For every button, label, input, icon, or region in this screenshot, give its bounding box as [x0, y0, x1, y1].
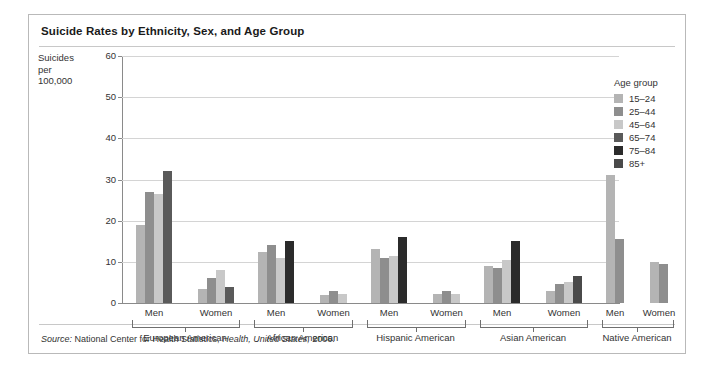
gridline: [122, 180, 619, 181]
x-axis-line: [122, 303, 620, 304]
bar: [320, 295, 329, 303]
legend-swatch-icon: [614, 159, 623, 168]
ethnicity-bracket: [254, 320, 353, 328]
x-axis-sex-label: Women: [629, 307, 689, 318]
legend-item-label: 75–84: [629, 145, 655, 156]
x-axis-ethnicity-label: Hispanic American: [356, 332, 476, 343]
bar: [650, 262, 659, 303]
bar: [216, 270, 225, 303]
legend-item-label: 15–24: [629, 93, 655, 104]
legend-item-label: 45–64: [629, 119, 655, 130]
gridline: [122, 138, 619, 139]
legend-title: Age group: [614, 77, 684, 88]
bar: [502, 260, 511, 303]
title-divider: [39, 46, 675, 47]
gridline: [122, 56, 619, 57]
bar: [564, 282, 573, 303]
y-axis-tick-mark: [118, 138, 122, 139]
ethnicity-bracket: [132, 320, 240, 328]
bar: [207, 278, 216, 303]
x-axis-sex-label: Men: [472, 307, 532, 318]
bar: [389, 256, 398, 303]
x-axis-sex-label: Women: [304, 307, 364, 318]
legend-swatch-icon: [614, 120, 623, 129]
y-axis-tick-label: 60: [92, 50, 116, 61]
bar: [380, 258, 389, 303]
bar: [329, 291, 338, 303]
legend-item: 85+: [614, 157, 684, 170]
x-axis-ethnicity-label: African American: [243, 332, 363, 343]
y-axis-tick-mark: [118, 180, 122, 181]
legend-swatch-icon: [614, 146, 623, 155]
bar: [136, 225, 145, 303]
source-prefix: Source:: [41, 334, 72, 344]
x-axis-ethnicity-label: Native American: [577, 332, 697, 343]
legend-swatch-icon: [614, 94, 623, 103]
legend-item: 45–64: [614, 118, 684, 131]
bar: [225, 287, 234, 303]
y-axis-tick-label: 0: [92, 297, 116, 308]
bar: [442, 291, 451, 303]
y-axis-tick-labels: 0102030405060: [90, 56, 116, 304]
y-axis-tick-label: 20: [92, 215, 116, 226]
y-axis-title-line-1: Suicides: [38, 52, 94, 64]
bar: [276, 258, 285, 303]
x-axis-sex-label: Women: [417, 307, 477, 318]
y-axis-tick-mark: [118, 97, 122, 98]
gridline: [122, 221, 619, 222]
y-axis-tick-mark: [118, 56, 122, 57]
bar: [511, 241, 520, 303]
legend-item: 75–84: [614, 144, 684, 157]
legend-swatch-icon: [614, 107, 623, 116]
y-axis-title-line-3: 100,000: [38, 75, 94, 87]
bar: [338, 294, 347, 303]
bar: [198, 289, 207, 303]
legend-entries: 15–2425–4445–6465–7475–8485+: [614, 92, 684, 170]
y-axis-tick-label: 30: [92, 174, 116, 185]
x-axis-ethnicity-label: European American: [125, 332, 245, 343]
bar: [615, 239, 624, 303]
legend-item-label: 65–74: [629, 132, 655, 143]
bar: [258, 252, 267, 303]
x-axis-ethnicity-label: Asian American: [473, 332, 593, 343]
ethnicity-bracket: [602, 320, 674, 328]
ethnicity-bracket: [367, 320, 466, 328]
y-axis-title: Suicides per 100,000: [38, 52, 94, 87]
bar: [154, 194, 163, 303]
bar: [285, 241, 294, 303]
bar: [398, 237, 407, 303]
bar: [371, 249, 380, 303]
plot-area: [122, 56, 619, 303]
bar: [546, 291, 555, 303]
chart-title: Suicide Rates by Ethnicity, Sex, and Age…: [41, 25, 304, 37]
bar: [163, 171, 172, 303]
bar: [659, 264, 668, 303]
y-axis-title-line-2: per: [38, 64, 94, 76]
y-axis-tick-label: 40: [92, 132, 116, 143]
y-axis-tick-mark: [118, 262, 122, 263]
legend: Age group 15–2425–4445–6465–7475–8485+: [614, 77, 684, 170]
legend-item-label: 85+: [629, 158, 645, 169]
x-axis-sex-label: Men: [359, 307, 419, 318]
y-axis-tick-mark: [118, 303, 122, 304]
bar: [555, 284, 564, 303]
y-axis-tick-label: 50: [92, 91, 116, 102]
legend-item: 25–44: [614, 105, 684, 118]
bar: [451, 294, 460, 303]
bar: [573, 276, 582, 303]
legend-item: 65–74: [614, 131, 684, 144]
bar: [267, 245, 276, 303]
bar: [433, 294, 442, 303]
ethnicity-bracket: [480, 320, 588, 328]
x-axis-sex-label: Men: [246, 307, 306, 318]
x-axis-sex-label: Men: [124, 307, 184, 318]
bar: [606, 175, 615, 303]
chart-figure: Suicide Rates by Ethnicity, Sex, and Age…: [28, 14, 686, 354]
bar: [493, 268, 502, 303]
y-axis-tick-mark: [118, 221, 122, 222]
legend-item-label: 25–44: [629, 106, 655, 117]
legend-swatch-icon: [614, 133, 623, 142]
x-axis-sex-label: Women: [186, 307, 246, 318]
bar: [484, 266, 493, 303]
y-axis-tick-label: 10: [92, 256, 116, 267]
